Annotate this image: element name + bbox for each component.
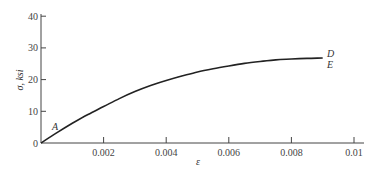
x-axis-label: ε [196, 156, 200, 167]
x-tick-label: 0.004 [155, 147, 178, 158]
y-tick-label: 30 [28, 42, 38, 53]
y-tick-label: 10 [28, 106, 38, 117]
stress-strain-chart: 010203040 0.0020.0040.0060.0080.01 σ, ks… [0, 0, 389, 172]
y-tick-label: 40 [28, 11, 38, 22]
y-ticks: 010203040 [28, 11, 46, 149]
point-label-a: A [51, 121, 59, 132]
y-tick-label: 0 [33, 138, 38, 149]
x-tick-label: 0.01 [345, 147, 363, 158]
stress-strain-curve [41, 58, 323, 143]
y-tick-label: 20 [28, 74, 38, 85]
y-axis-label: σ, ksi [14, 69, 25, 90]
axes [41, 14, 364, 143]
x-ticks: 0.0020.0040.0060.0080.01 [92, 137, 362, 158]
point-label-e: E [326, 59, 333, 70]
point-label-d: D [326, 48, 335, 59]
x-tick-label: 0.002 [92, 147, 115, 158]
x-tick-label: 0.008 [280, 147, 303, 158]
x-tick-label: 0.006 [218, 147, 241, 158]
